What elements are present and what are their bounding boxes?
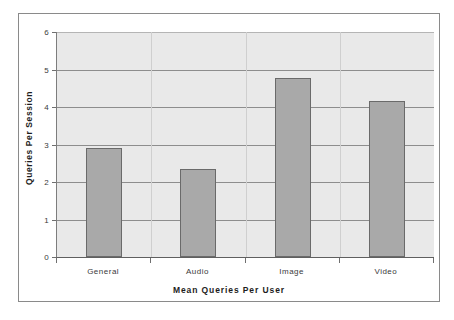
bar-image[interactable]	[275, 78, 311, 257]
y-tick-label-3: 3	[23, 140, 49, 149]
x-axis-title: Mean Queries Per User	[19, 285, 439, 295]
x-tick-mark-1	[150, 258, 151, 263]
y-tick-label-4: 4	[23, 103, 49, 112]
x-tick-mark-4	[433, 258, 434, 263]
x-tick-label-video: Video	[339, 267, 433, 276]
y-tick-label-0: 0	[23, 253, 49, 262]
bar-general[interactable]	[86, 148, 122, 257]
bar-video[interactable]	[369, 101, 405, 257]
x-tick-mark-2	[245, 258, 246, 263]
category-separator-1	[151, 32, 152, 257]
x-tick-mark-3	[339, 258, 340, 263]
y-tick-label-1: 1	[23, 215, 49, 224]
y-tick-label-2: 2	[23, 178, 49, 187]
x-tick-label-audio: Audio	[150, 267, 244, 276]
plot-area	[56, 32, 434, 258]
category-separator-2	[246, 32, 247, 257]
bar-audio[interactable]	[180, 169, 216, 257]
chart-frame: Queries Per Session 0123456 GeneralAudio…	[18, 13, 440, 302]
x-tick-mark-0	[56, 258, 57, 263]
category-separator-3	[340, 32, 341, 257]
y-tick-label-6: 6	[23, 28, 49, 37]
x-tick-label-image: Image	[245, 267, 339, 276]
y-tick-label-5: 5	[23, 65, 49, 74]
x-tick-label-general: General	[56, 267, 150, 276]
